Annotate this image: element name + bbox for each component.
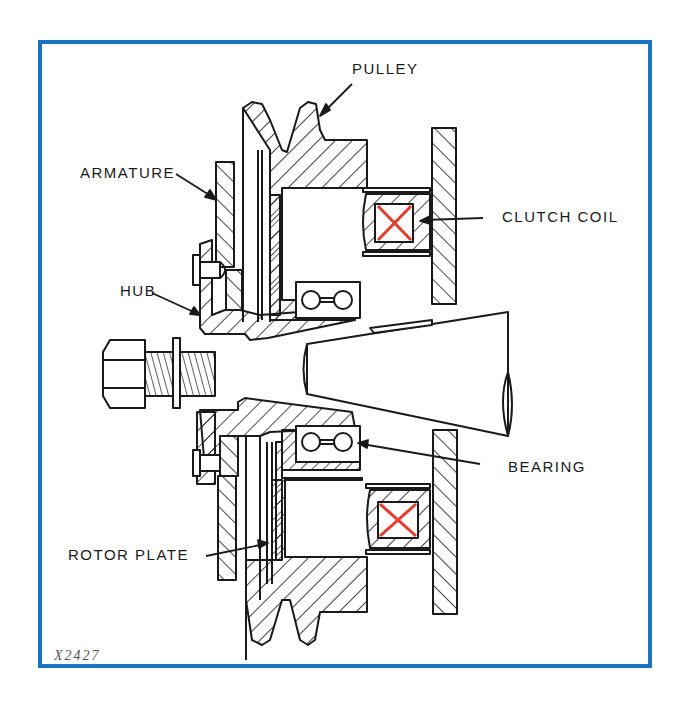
clutch-cross-section-diagram [0, 0, 692, 708]
armature-lower [218, 476, 236, 580]
label-pulley: PULLEY [352, 60, 419, 77]
armature-upper [216, 162, 234, 267]
field-bracket-upper [432, 128, 456, 304]
label-clutch-coil: CLUTCH COIL [502, 208, 619, 225]
bolt [103, 338, 215, 408]
label-rotor-plate: ROTOR PLATE [68, 546, 189, 563]
bearing-lower [282, 426, 360, 470]
label-armature: ARMATURE [80, 164, 175, 181]
rotor-plate-upper [258, 150, 262, 320]
bearing-upper [296, 282, 360, 318]
label-hub: HUB [120, 282, 156, 299]
label-bearing: BEARING [508, 458, 586, 475]
figure-number: X2427 [54, 648, 101, 664]
